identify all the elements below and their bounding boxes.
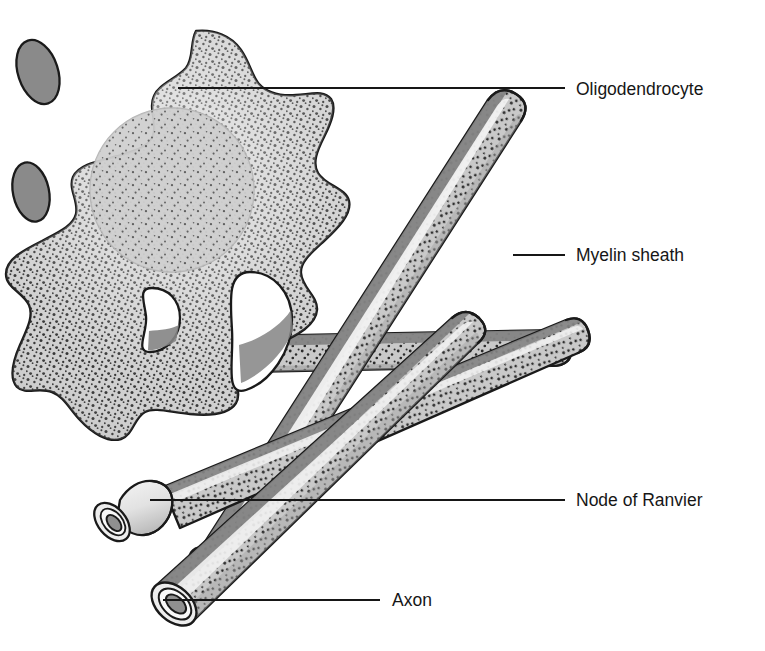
label-oligodendrocyte: Oligodendrocyte (576, 79, 703, 99)
label-node-of-ranvier: Node of Ranvier (576, 490, 703, 510)
process-end-upper-left (9, 34, 67, 109)
label-myelin-sheath: Myelin sheath (576, 245, 684, 265)
label-axon: Axon (392, 590, 432, 610)
nucleus (90, 108, 254, 272)
process-loop-right (231, 272, 293, 391)
oligodendrocyte-diagram: Oligodendrocyte Myelin sheath Node of Ra… (0, 0, 765, 651)
figure-container: Oligodendrocyte Myelin sheath Node of Ra… (0, 0, 765, 651)
cell-body (0, 0, 420, 460)
process-end-lower-left (7, 159, 55, 225)
